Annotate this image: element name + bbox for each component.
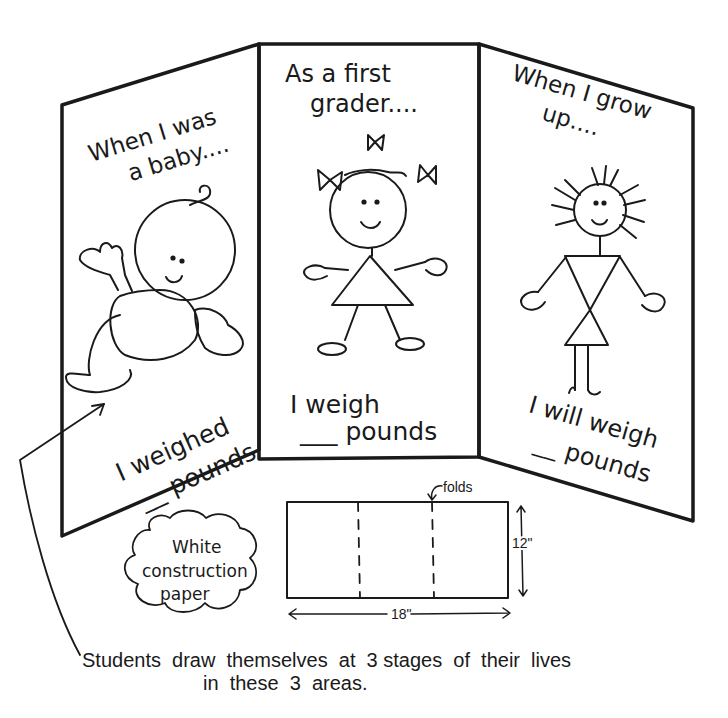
girl-figure-icon: [304, 135, 447, 355]
woman-figure-icon: [521, 166, 665, 394]
baby-figure-icon: [66, 186, 243, 392]
height-label: 12": [512, 535, 533, 551]
center-caption-line1: I weigh: [290, 390, 380, 419]
cloud-line1: White: [172, 537, 221, 557]
center-caption-line2: ___ pounds: [299, 417, 437, 446]
center-heading-line2: grader....: [310, 90, 418, 118]
cloud-line2: construction: [142, 561, 248, 581]
width-label: 18": [391, 606, 412, 622]
height-arrow-icon: [517, 506, 527, 596]
paper-diagram: folds 12" 18": [287, 479, 533, 622]
cloud-line3: paper: [160, 584, 209, 604]
tri-fold-illustration: When I was a baby.... I weighed __ pound…: [0, 0, 728, 718]
footer-line1: Students draw themselves at 3 stages of …: [82, 649, 571, 671]
footer-line2: in these 3 areas.: [203, 672, 368, 694]
folds-label: folds: [443, 479, 473, 495]
center-heading-line1: As a first: [285, 60, 391, 88]
